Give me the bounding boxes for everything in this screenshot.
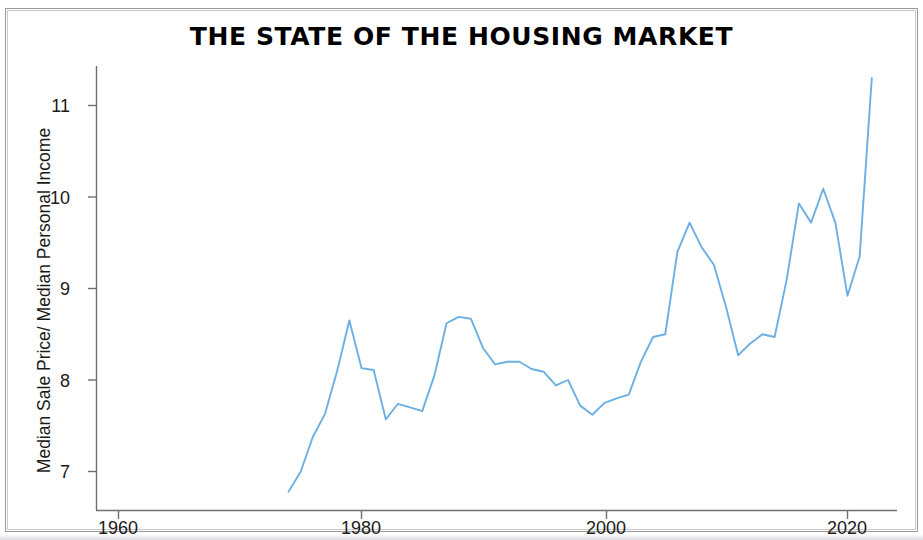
screenshot-root: THE STATE OF THE HOUSING MARKET Median S… — [0, 0, 923, 540]
scan-edge-artifact — [0, 534, 923, 540]
data-series-line — [289, 78, 872, 492]
x-axis-ticks — [119, 511, 848, 519]
chart-plot-area — [0, 0, 923, 540]
y-axis-ticks — [88, 106, 96, 472]
